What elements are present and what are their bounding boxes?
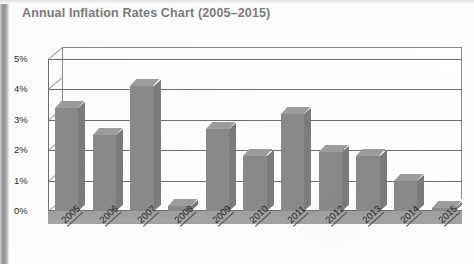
x-axis-labels: 2005200620072008200920102011201220132014… xyxy=(48,214,468,264)
y-axis-tick-label: 2% xyxy=(14,144,48,155)
bar-side-face xyxy=(342,145,349,211)
bar xyxy=(206,129,229,211)
bar-side-face xyxy=(229,123,236,211)
bar xyxy=(55,108,78,211)
bar-side-face xyxy=(304,107,311,211)
bar-side-face xyxy=(154,80,161,211)
y-axis-tick-label: 5% xyxy=(14,53,48,64)
y-axis-tick-label: 3% xyxy=(14,114,48,125)
bar xyxy=(281,114,304,211)
bar-side-face xyxy=(267,150,274,211)
bar xyxy=(130,86,153,211)
y-axis-tick-label: 4% xyxy=(14,83,48,94)
bar xyxy=(93,135,116,211)
bar-front-face xyxy=(281,114,304,211)
bar-front-face xyxy=(130,86,153,211)
bar-front-face xyxy=(93,135,116,211)
bar-side-face xyxy=(380,150,387,211)
bar-series xyxy=(48,59,462,211)
bar-chart: 0%1%2%3%4%5% 200520062007200820092010201… xyxy=(0,0,474,264)
bar-front-face xyxy=(55,108,78,211)
bar-side-face xyxy=(116,129,123,211)
y-axis-tick-label: 1% xyxy=(14,175,48,186)
bar-front-face xyxy=(206,129,229,211)
y-axis-tick-label: 0% xyxy=(14,205,48,216)
bar-side-face xyxy=(78,101,85,211)
